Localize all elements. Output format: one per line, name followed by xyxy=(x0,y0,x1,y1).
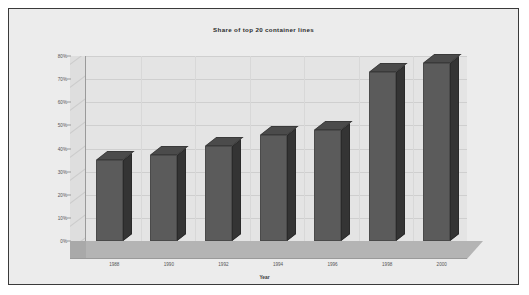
category-separator xyxy=(195,56,196,241)
bar-side-face xyxy=(450,56,459,241)
category-separator xyxy=(141,56,142,241)
bar-front-face xyxy=(369,72,396,241)
y-axis-labels: 0%10%20%30%40%50%60%70%80% xyxy=(45,56,67,241)
x-axis-title: Year xyxy=(9,275,520,280)
y-tick-mark xyxy=(67,194,71,195)
y-tick-mark xyxy=(67,125,71,126)
gridline xyxy=(86,56,467,57)
y-tick-label: 20% xyxy=(58,192,67,197)
bar-column[interactable] xyxy=(96,160,123,241)
category-separator xyxy=(359,56,360,241)
y-tick-mark xyxy=(67,79,71,80)
category-separator xyxy=(250,56,251,241)
x-tick-label: 1990 xyxy=(164,262,174,267)
chart-floor-right xyxy=(467,241,483,259)
y-tick-label: 70% xyxy=(58,77,67,82)
x-tick-label: 1994 xyxy=(273,262,283,267)
bar-column[interactable] xyxy=(369,72,396,241)
bar-side-face xyxy=(287,128,296,241)
y-tick-label: 80% xyxy=(58,54,67,59)
gridline xyxy=(86,102,467,103)
bar-column[interactable] xyxy=(205,146,232,241)
chart-floor-edge xyxy=(70,258,467,259)
category-separator xyxy=(304,56,305,241)
bar-front-face xyxy=(423,63,450,241)
bar-column[interactable] xyxy=(260,135,287,241)
bar-column[interactable] xyxy=(150,155,177,241)
bar-column[interactable] xyxy=(314,130,341,241)
bar-front-face xyxy=(150,155,177,241)
y-tick-label: 40% xyxy=(58,146,67,151)
y-tick-mark xyxy=(67,148,71,149)
x-tick-label: 1988 xyxy=(109,262,119,267)
bar-side-face xyxy=(123,153,132,241)
bar-front-face xyxy=(205,146,232,241)
chart-floor xyxy=(70,241,467,259)
bar-column[interactable] xyxy=(423,63,450,241)
chart-floor-left xyxy=(70,241,86,259)
y-tick-mark xyxy=(67,217,71,218)
x-tick-label: 1996 xyxy=(327,262,337,267)
bar-side-face xyxy=(396,65,405,241)
x-axis-labels: 1988199019921994199619982000 xyxy=(9,262,520,272)
bar-front-face xyxy=(96,160,123,241)
y-tick-mark xyxy=(67,102,71,103)
chart-title: Share of top 20 container lines xyxy=(9,26,518,33)
bar-front-face xyxy=(314,130,341,241)
bar-side-face xyxy=(177,148,186,241)
y-tick-label: 10% xyxy=(58,215,67,220)
bar-side-face xyxy=(232,139,241,241)
category-separator xyxy=(413,56,414,241)
y-tick-mark xyxy=(67,171,71,172)
x-tick-label: 1992 xyxy=(218,262,228,267)
gridline xyxy=(86,79,467,80)
x-tick-label: 2000 xyxy=(437,262,447,267)
bar-front-face xyxy=(260,135,287,241)
y-tick-label: 60% xyxy=(58,100,67,105)
bar-side-face xyxy=(341,123,350,241)
y-tick-label: 50% xyxy=(58,123,67,128)
x-tick-label: 1998 xyxy=(382,262,392,267)
chart-frame: Share of top 20 container lines 0%10%20%… xyxy=(8,8,519,285)
y-tick-label: 0% xyxy=(60,239,67,244)
y-tick-mark xyxy=(67,56,71,57)
y-tick-label: 30% xyxy=(58,169,67,174)
